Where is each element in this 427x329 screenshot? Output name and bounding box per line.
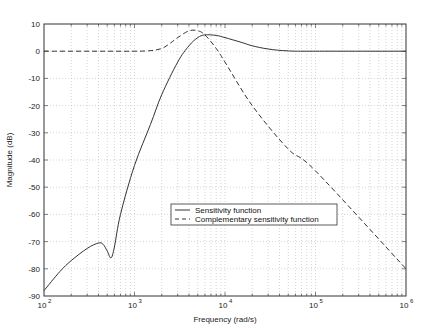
y-tick-label: -10: [28, 74, 40, 83]
bode-magnitude-chart: 100-10-20-30-40-50-60-70-80-90 102103104…: [0, 0, 427, 329]
x-tick-exponent: 6: [410, 298, 414, 304]
x-tick-exponent: 4: [229, 298, 233, 304]
y-tick-label: -80: [28, 265, 40, 274]
y-tick-label: -50: [28, 183, 40, 192]
y-tick-label: -90: [28, 292, 40, 301]
y-tick-label: -40: [28, 156, 40, 165]
complementary-sensitivity-curve: [44, 30, 406, 269]
legend-item-sensitivity: Sensitivity function: [195, 206, 261, 215]
y-axis-ticks: 100-10-20-30-40-50-60-70-80-90: [28, 20, 40, 301]
y-tick-label: -70: [28, 238, 40, 247]
x-tick-exponent: 5: [320, 298, 324, 304]
x-tick-exponent: 3: [139, 298, 143, 304]
y-tick-label: 10: [31, 20, 40, 29]
y-tick-label: -30: [28, 129, 40, 138]
x-tick-exponent: 2: [48, 298, 52, 304]
x-tick-label: 10: [38, 301, 47, 310]
x-tick-label: 10: [219, 301, 228, 310]
y-tick-label: -60: [28, 210, 40, 219]
x-tick-label: 10: [128, 301, 137, 310]
x-axis-ticks: 102103104105106: [38, 298, 414, 310]
y-tick-label: 0: [36, 47, 41, 56]
legend-item-complementary: Complementary sensitivity function: [195, 215, 319, 224]
grid-lines: [44, 24, 406, 296]
legend: Sensitivity function Complementary sensi…: [171, 204, 337, 225]
x-tick-label: 10: [309, 301, 318, 310]
y-axis-label: Magnitude (dB): [5, 132, 14, 187]
x-tick-label: 10: [400, 301, 409, 310]
x-axis-label: Frequency (rad/s): [193, 315, 256, 324]
y-tick-label: -20: [28, 102, 40, 111]
